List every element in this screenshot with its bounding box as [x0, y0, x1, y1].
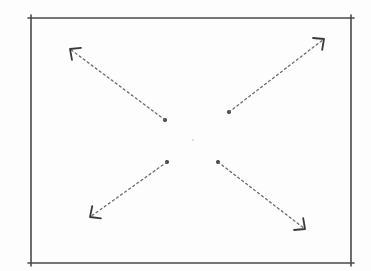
diagram-canvas [0, 0, 371, 271]
arrowhead-icon [90, 206, 101, 218]
dotted-shaft [70, 49, 165, 120]
arrows [70, 38, 324, 230]
arrow-up-right [227, 38, 324, 114]
dotted-shaft [90, 162, 167, 217]
arrow-down-left [90, 160, 169, 218]
outward-arrows-diagram [0, 0, 371, 271]
arrowhead-icon [313, 38, 324, 50]
center-speck [192, 139, 194, 141]
dotted-shaft [229, 39, 324, 112]
arrowhead-icon [294, 218, 305, 230]
arrow-up-left [70, 48, 167, 122]
dotted-shaft [218, 162, 305, 229]
arrow-down-right [216, 160, 305, 230]
center-mark [192, 139, 194, 141]
